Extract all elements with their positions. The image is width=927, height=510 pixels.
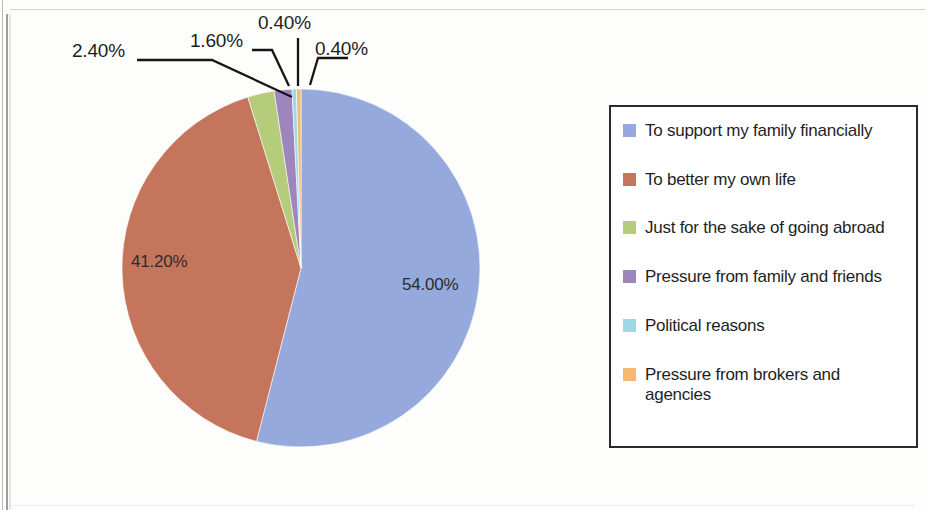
leader-line-orange [310, 58, 348, 85]
legend-item[interactable]: Pressure from brokers and agencies [623, 365, 906, 406]
legend-item-label: To support my family financially [645, 121, 872, 142]
legend-item-label: Pressure from family and friends [645, 267, 882, 288]
legend-swatch-icon [623, 319, 636, 332]
legend-swatch-icon [623, 270, 636, 283]
legend-item[interactable]: Just for the sake of going abroad [623, 218, 906, 239]
callout-label-cyan: 0.40% [258, 12, 311, 34]
leader-line-purple [252, 50, 289, 86]
legend-swatch-icon [623, 221, 636, 234]
slice-label-better-own-life: 41.20% [131, 252, 187, 272]
legend-item[interactable]: Pressure from family and friends [623, 267, 906, 288]
slice-label-support-family: 54.00% [402, 275, 458, 295]
legend-item-label: To better my own life [645, 170, 796, 191]
legend-item-label: Just for the sake of going abroad [645, 218, 884, 239]
legend-swatch-icon [623, 368, 636, 381]
chart-legend: To support my family financiallyTo bette… [609, 105, 918, 448]
legend-swatch-icon [623, 124, 636, 137]
callout-label-purple: 1.60% [190, 30, 243, 52]
legend-item-label: Political reasons [645, 316, 765, 337]
legend-item[interactable]: To better my own life [623, 170, 906, 191]
legend-item[interactable]: To support my family financially [623, 121, 906, 142]
callout-label-orange: 0.40% [315, 38, 368, 60]
pie-chart-area: 2.40% 1.60% 0.40% 0.40% 54.00% 41.20% [0, 0, 600, 510]
legend-item[interactable]: Political reasons [623, 316, 906, 337]
chart-page: 2.40% 1.60% 0.40% 0.40% 54.00% 41.20% To… [0, 0, 927, 510]
callout-label-green: 2.40% [72, 40, 125, 62]
legend-list: To support my family financiallyTo bette… [623, 121, 906, 436]
legend-swatch-icon [623, 173, 636, 186]
legend-item-label: Pressure from brokers and agencies [645, 365, 906, 406]
